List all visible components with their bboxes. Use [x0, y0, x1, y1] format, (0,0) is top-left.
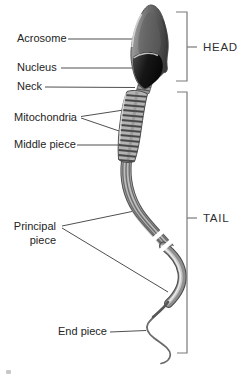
neck-leader-line — [45, 87, 135, 88]
label-middle-piece: Middle piece — [14, 138, 76, 151]
sperm-diagram-art — [0, 0, 248, 380]
principal-piece-leader-line-lower — [62, 228, 168, 292]
tail-bracket — [177, 92, 187, 353]
head-bracket — [176, 12, 187, 81]
label-mitochondria: Mitochondria — [14, 111, 77, 124]
head-part — [131, 5, 168, 90]
print-artifact — [6, 370, 11, 374]
end-piece-leader-line — [110, 331, 146, 333]
label-tail: TAIL — [203, 212, 229, 225]
label-end-piece: End piece — [58, 325, 107, 338]
label-nucleus: Nucleus — [17, 61, 57, 74]
label-head: HEAD — [203, 41, 238, 54]
middle-piece-part — [118, 90, 149, 162]
label-principal-piece: Principal piece — [8, 219, 56, 247]
principal-piece-leader-line-upper — [62, 212, 132, 227]
tail-principal-piece-upper — [121, 160, 174, 247]
label-principal-piece-line2: piece — [8, 233, 56, 247]
mitochondria-leader-line-upper — [81, 110, 127, 117]
label-principal-piece-line1: Principal — [8, 219, 56, 233]
label-neck: Neck — [17, 80, 42, 93]
tail-principal-piece-lower — [162, 246, 183, 304]
mitochondria-leader-line-lower — [81, 118, 122, 132]
brackets — [176, 12, 197, 353]
diagram-canvas: Acrosome Nucleus Neck Mitochondria Middl… — [0, 0, 248, 380]
label-acrosome: Acrosome — [17, 32, 67, 45]
tail-end-piece — [147, 302, 170, 364]
